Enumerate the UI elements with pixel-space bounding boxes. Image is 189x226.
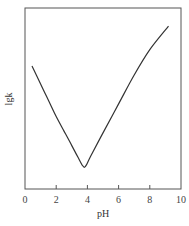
- x-tick-label: 2: [54, 194, 59, 205]
- plot-frame: [25, 8, 181, 189]
- data-line: [32, 26, 169, 167]
- x-tick-label: 0: [23, 194, 28, 205]
- x-tick-label: 4: [85, 194, 90, 205]
- x-tick-label: 10: [176, 194, 186, 205]
- x-axis-label: pH: [97, 208, 109, 219]
- x-axis-ticks: [56, 185, 150, 189]
- x-tick-label: 8: [147, 194, 152, 205]
- chart: 0246810 pH lgk: [0, 0, 189, 226]
- x-tick-label: 6: [116, 194, 121, 205]
- x-axis-tick-labels: 0246810: [23, 194, 187, 205]
- y-axis-label: lgk: [3, 93, 14, 106]
